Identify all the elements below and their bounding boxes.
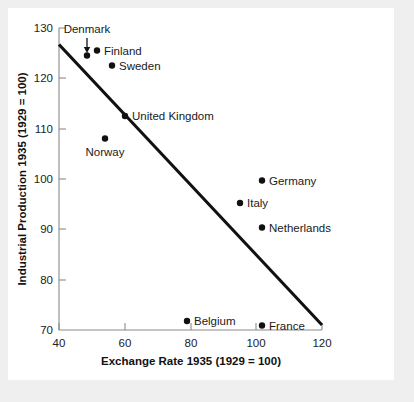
point-label-norway: Norway [86,146,125,158]
plot-svg: 130 120 110 100 90 80 70 40 60 80 100 12… [8,8,394,380]
point-label-germany: Germany [269,175,317,187]
y-tick-label-120: 120 [34,72,53,84]
data-point-norway[interactable] [102,135,108,141]
data-point-belgium[interactable] [184,318,190,324]
point-label-sweden: Sweden [119,60,161,72]
data-point-france[interactable] [259,322,265,328]
point-label-denmark: Denmark [64,23,111,35]
y-axis-title: Industrial Production 1935 (1929 = 100) [16,72,28,285]
chart-card: 130 120 110 100 90 80 70 40 60 80 100 12… [8,8,394,380]
y-tick-label-110: 110 [35,123,53,135]
point-label-italy: Italy [247,197,268,209]
data-point-denmark[interactable] [84,52,90,58]
figure-root: 130 120 110 100 90 80 70 40 60 80 100 12… [0,0,414,402]
x-tick-label-60: 60 [119,337,132,349]
x-axis-title: Exchange Rate 1935 (1929 = 100) [101,355,281,367]
y-tick-label-70: 70 [40,324,53,336]
point-label-finland: Finland [104,45,142,57]
data-point-sweden[interactable] [109,62,115,68]
point-label-united-kingdom: United Kingdom [132,110,214,122]
y-tick-label-130: 130 [34,22,53,34]
scatter-plot: 130 120 110 100 90 80 70 40 60 80 100 12… [8,8,394,380]
data-point-germany[interactable] [259,177,265,183]
data-point-finland[interactable] [94,47,100,53]
data-point-netherlands[interactable] [259,224,265,230]
data-point-italy[interactable] [237,200,243,206]
denmark-arrow-head [84,47,90,53]
y-tick-label-100: 100 [34,173,53,185]
point-label-belgium: Belgium [194,315,236,327]
point-label-netherlands: Netherlands [269,222,331,234]
y-tick-label-80: 80 [40,274,53,286]
x-tick-label-100: 100 [246,337,265,349]
x-tick-label-80: 80 [185,337,198,349]
x-tick-label-120: 120 [312,337,331,349]
x-tick-label-40: 40 [53,337,66,349]
data-point-united-kingdom[interactable] [122,113,128,119]
y-tick-label-90: 90 [40,223,53,235]
point-label-france: France [269,320,305,332]
